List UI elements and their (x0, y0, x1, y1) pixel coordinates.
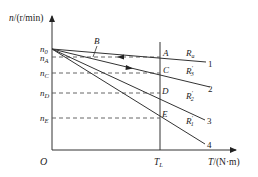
line-number-1: 1 (208, 59, 213, 69)
line-number-4: 4 (207, 140, 212, 150)
point-C: C (163, 65, 170, 75)
label-nC: nC (40, 68, 50, 79)
b-pointer (93, 46, 97, 57)
resistance-Ra: Ra (185, 48, 195, 59)
x-axis-label: T/(N·m) (208, 157, 240, 168)
point-E: E (161, 109, 168, 119)
y-axis-label: n/(r/min) (9, 13, 43, 24)
tl-label: TL (154, 157, 163, 168)
label-nD: nD (40, 88, 50, 99)
resistance-R1: R′1 (185, 115, 194, 127)
label-nE: nE (40, 113, 49, 124)
line-number-2: 2 (208, 84, 213, 94)
characteristic-line-4 (52, 49, 205, 144)
point-D: D (161, 86, 169, 96)
resistance-R2: R′2 (185, 90, 194, 102)
right-arrow-icon (126, 65, 134, 70)
resistance-R3: R′3 (185, 65, 194, 77)
point-B: B (94, 36, 100, 46)
point-A: A (162, 48, 169, 58)
origin-label: O (40, 156, 47, 167)
speed-torque-diagram: n/(r/min) T/(N·m) O TL n0 nA nC nD nE A … (0, 0, 258, 177)
line-number-3: 3 (207, 116, 212, 126)
